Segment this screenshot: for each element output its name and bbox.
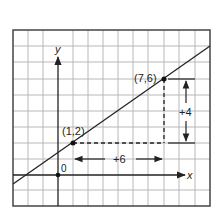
grid	[13, 30, 210, 206]
point-a-label: (1,2)	[62, 125, 85, 137]
slope-graph: x y 0 (1,2) (7,6) +6 +4	[0, 0, 220, 221]
run-label: +6	[113, 153, 126, 165]
point-7-6	[162, 77, 167, 82]
point-1-2	[71, 141, 76, 146]
rise-label: +4	[179, 106, 192, 118]
origin-point	[56, 173, 61, 178]
point-b-label: (7,6)	[134, 72, 157, 84]
y-axis-label: y	[54, 43, 62, 55]
x-axis-label: x	[186, 169, 193, 181]
origin-label: 0	[61, 163, 67, 174]
